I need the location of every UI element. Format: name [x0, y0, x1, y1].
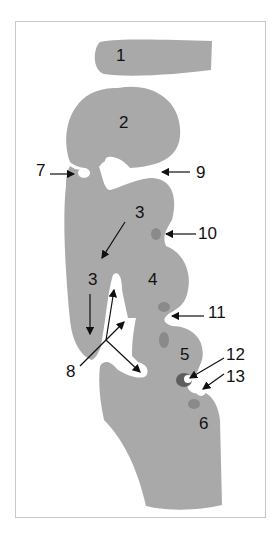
notch-7: [78, 168, 90, 178]
spot-11: [158, 302, 170, 312]
label-4: 4: [148, 270, 157, 289]
label-13: 13: [226, 367, 245, 386]
label-7: 7: [36, 161, 45, 180]
label-3-lower: 3: [88, 270, 97, 289]
label-3-upper: 3: [135, 203, 144, 222]
spot-12-center: [184, 375, 192, 383]
label-5: 5: [180, 345, 189, 364]
label-11: 11: [208, 303, 226, 322]
label-12: 12: [226, 345, 245, 364]
spot-5-upper: [159, 332, 169, 348]
anatomical-diagram: 1 2 3 3 4 5 6 7 8 9 10 11 12 13: [0, 0, 280, 536]
label-2: 2: [119, 113, 128, 132]
label-6: 6: [199, 414, 208, 433]
label-8: 8: [66, 362, 75, 381]
label-9: 9: [196, 163, 205, 182]
segment-1: [95, 40, 212, 76]
spot-10: [151, 228, 161, 240]
label-10: 10: [198, 224, 217, 243]
spot-13: [188, 399, 200, 409]
label-1: 1: [116, 46, 125, 65]
